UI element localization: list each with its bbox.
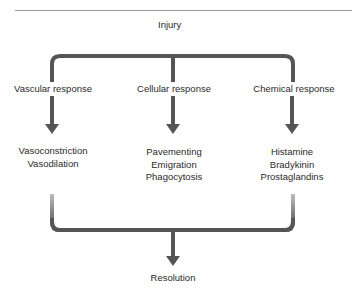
- branch-label-chemical: Chemical response: [246, 83, 342, 95]
- chemical-arrowhead: [285, 124, 299, 134]
- root-label: Injury: [158, 19, 181, 31]
- cellular-items: Pavementing Emigration Phagocytosis: [129, 146, 219, 184]
- list-item: Emigration: [129, 159, 219, 172]
- cellular-arrowhead: [166, 124, 180, 134]
- outcome-label: Resolution: [148, 272, 198, 284]
- list-item: Pavementing: [129, 146, 219, 159]
- list-item: Vasoconstriction: [8, 145, 98, 158]
- branch-label-cellular: Cellular response: [129, 83, 219, 95]
- vascular-items: Vasoconstriction Vasodilation: [8, 145, 98, 170]
- branch-label-vascular: Vascular response: [8, 83, 98, 95]
- vascular-arrowhead: [45, 124, 59, 134]
- resolution-arrowhead: [166, 256, 180, 266]
- list-item: Bradykinin: [246, 159, 338, 172]
- list-item: Prostaglandins: [246, 171, 338, 184]
- list-item: Phagocytosis: [129, 171, 219, 184]
- list-item: Histamine: [246, 146, 338, 159]
- list-item: Vasodilation: [8, 158, 98, 171]
- chemical-items: Histamine Bradykinin Prostaglandins: [246, 146, 338, 184]
